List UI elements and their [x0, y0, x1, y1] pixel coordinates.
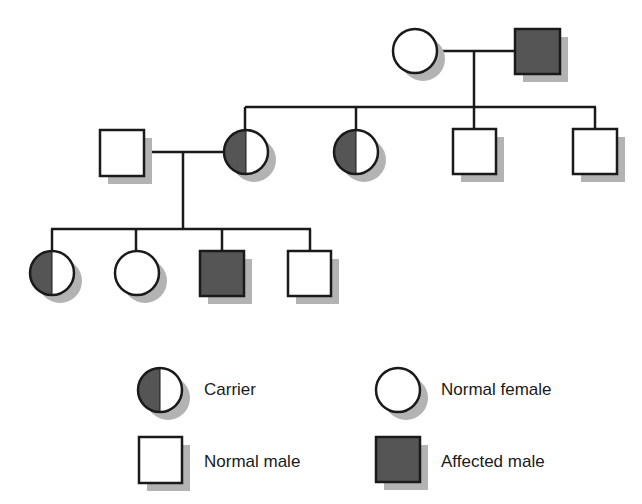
affected-male-icon [200, 251, 244, 296]
legend-label-affected-male: Affected male [441, 453, 545, 470]
carrier-female-icon [224, 130, 268, 174]
carrier-female-icon [30, 251, 74, 295]
normal-male-icon [288, 251, 331, 296]
normal-female-icon [393, 29, 437, 73]
legend-normal-male-icon [139, 437, 182, 483]
normal-female-icon [115, 251, 159, 295]
legend-affected-male-icon [376, 437, 420, 482]
legend-label-normal-female: Normal female [441, 381, 552, 398]
legend-normal-female-icon [376, 368, 420, 412]
carrier-female-icon [334, 130, 378, 174]
normal-male-icon [453, 129, 496, 174]
normal-male-icon [573, 129, 617, 174]
legend-label-carrier: Carrier [204, 381, 256, 398]
normal-male-icon [100, 130, 144, 176]
legend-carrier-icon [138, 368, 182, 412]
affected-male-icon [515, 29, 560, 74]
pedigree-chart [0, 0, 642, 504]
legend-label-normal-male: Normal male [204, 453, 300, 470]
